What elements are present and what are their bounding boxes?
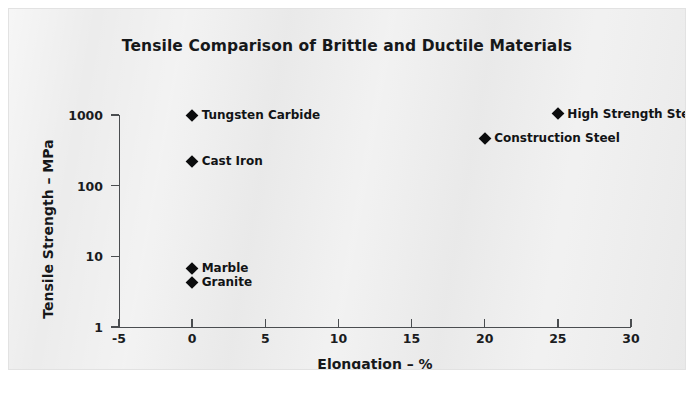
x-tick-label--5: -5 — [112, 331, 126, 346]
diamond-marker-icon — [478, 132, 491, 145]
data-point[interactable]: Cast Iron — [188, 154, 263, 168]
diamond-marker-icon — [186, 155, 199, 168]
x-tick-5 — [265, 319, 266, 327]
y-tick-label-1000: 1000 — [57, 108, 103, 123]
diamond-marker-icon — [186, 276, 199, 289]
x-tick-label-25: 25 — [549, 331, 566, 346]
data-point-label: Cast Iron — [202, 154, 263, 168]
x-tick-30 — [630, 319, 631, 327]
x-tick-label-15: 15 — [403, 331, 420, 346]
data-point[interactable]: Marble — [188, 261, 249, 275]
data-point[interactable]: High Strength Steel — [553, 107, 686, 121]
chart-panel: Tensile Comparison of Brittle and Ductil… — [8, 8, 686, 370]
diamond-marker-icon — [186, 262, 199, 275]
chart-title: Tensile Comparison of Brittle and Ductil… — [9, 37, 685, 55]
x-tick-label-30: 30 — [622, 331, 639, 346]
diamond-marker-icon — [186, 109, 199, 122]
data-point-label: Construction Steel — [494, 131, 620, 145]
data-point-label: Tungsten Carbide — [202, 108, 321, 122]
x-tick-label-0: 0 — [188, 331, 197, 346]
data-point-label: High Strength Steel — [567, 107, 686, 121]
x-axis-line — [119, 327, 631, 328]
x-tick-25 — [557, 319, 558, 327]
x-tick--5 — [118, 319, 119, 327]
figure-container: Tensile Comparison of Brittle and Ductil… — [0, 0, 695, 394]
y-tick-100 — [111, 185, 119, 186]
data-point-label: Marble — [202, 261, 249, 275]
x-tick-label-10: 10 — [330, 331, 347, 346]
y-axis-line — [119, 115, 120, 328]
y-tick-10 — [111, 256, 119, 257]
y-tick-label-10: 10 — [57, 249, 103, 264]
x-tick-10 — [338, 319, 339, 327]
y-tick-1000 — [111, 114, 119, 115]
y-tick-label-100: 100 — [57, 178, 103, 193]
data-point[interactable]: Tungsten Carbide — [188, 108, 321, 122]
x-tick-20 — [484, 319, 485, 327]
x-tick-label-20: 20 — [476, 331, 493, 346]
data-point-label: Granite — [202, 275, 252, 289]
diamond-marker-icon — [551, 107, 564, 120]
data-point[interactable]: Construction Steel — [480, 131, 620, 145]
x-tick-0 — [191, 319, 192, 327]
y-tick-label-1: 1 — [57, 320, 103, 335]
x-tick-label-5: 5 — [261, 331, 270, 346]
y-axis-label: Tensile Strength – MPa — [40, 114, 56, 344]
x-tick-15 — [411, 319, 412, 327]
x-axis-label: Elongation – % — [119, 356, 631, 370]
data-point[interactable]: Granite — [188, 275, 252, 289]
